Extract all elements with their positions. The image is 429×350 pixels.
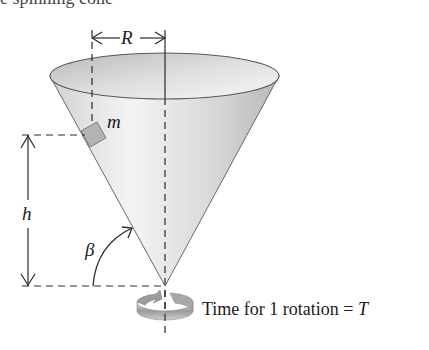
- cone-diagram: e spinning cone: [0, 0, 429, 350]
- angle-arc: [93, 227, 132, 286]
- radius-label: R: [121, 28, 133, 47]
- rotation-caption: Time for 1 rotation = T: [202, 300, 368, 318]
- rotation-arrow-icon: [137, 290, 193, 320]
- height-label: h: [22, 204, 32, 223]
- angle-label: β: [85, 240, 94, 259]
- mass-label: m: [107, 112, 121, 131]
- rotation-text: Time for 1 rotation =: [202, 299, 358, 319]
- period-symbol: T: [358, 299, 368, 319]
